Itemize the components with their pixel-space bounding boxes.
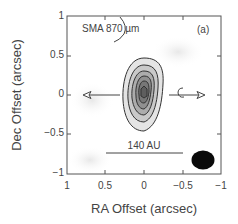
beam-ellipse (192, 151, 215, 170)
y-tick-label: 0 (58, 88, 64, 99)
panel-label: (a) (197, 24, 209, 35)
instrument-label: SMA 870 µm (82, 23, 139, 34)
scale-bar-label: 140 AU (128, 140, 161, 151)
x-axis-label: RA Offset (arcsec) (91, 201, 197, 216)
dust-continuum-contours (123, 58, 163, 131)
small-curl-feature (178, 88, 184, 97)
y-axis-label: Dec Offset (arcsec) (9, 39, 24, 151)
x-tick-label: −0.5 (173, 180, 193, 191)
y-tick-label: −0.5 (44, 127, 64, 138)
y-tick-label: −1 (53, 167, 64, 178)
outflow-arrow-right (169, 92, 205, 99)
diffuse-emission (70, 82, 114, 118)
diffuse-emission (152, 36, 204, 68)
y-tick-label: 1 (58, 10, 64, 21)
y-tick-label: 0.5 (50, 49, 64, 60)
x-tick-label: 1 (64, 180, 70, 191)
x-tick-label: 0.5 (98, 180, 112, 191)
diffuse-emission (68, 146, 112, 174)
x-tick-label: −1 (215, 180, 226, 191)
x-tick-label: 0 (141, 180, 147, 191)
